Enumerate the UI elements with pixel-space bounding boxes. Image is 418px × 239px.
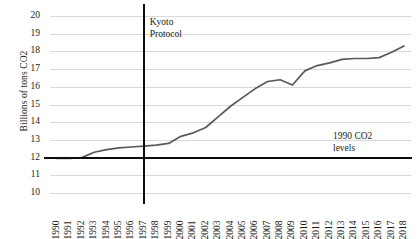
- x-tick-2005: 2005: [237, 220, 247, 239]
- plot-area: Kyoto Protocol 1990 CO2 levels: [50, 16, 411, 193]
- reference-line-kyoto-protocol: [143, 4, 145, 204]
- x-tick-2003: 2003: [213, 220, 223, 239]
- co2-emissions-chart: Billions of tons CO2 1011121314151617181…: [0, 0, 418, 239]
- x-tick-1995: 1995: [113, 220, 123, 239]
- y-tick-10: 10: [0, 188, 40, 198]
- annotation-1990-levels: 1990 CO2 levels: [333, 130, 372, 154]
- y-tick-11: 11: [0, 171, 40, 181]
- x-tick-2004: 2004: [225, 220, 235, 239]
- x-tick-1996: 1996: [126, 220, 136, 239]
- y-tick-13: 13: [0, 135, 40, 145]
- annotation-kyoto-line2: Protocol: [150, 28, 182, 40]
- annotation-levels-line2: levels: [333, 142, 372, 154]
- x-tick-2008: 2008: [275, 220, 285, 239]
- x-tick-2000: 2000: [175, 220, 185, 239]
- series-line: [50, 16, 411, 193]
- x-tick-2014: 2014: [349, 220, 359, 239]
- x-axis-tick-labels: 1990199119921993199419951996199719981999…: [50, 196, 411, 239]
- x-tick-1997: 1997: [138, 220, 148, 239]
- x-tick-1998: 1998: [151, 220, 161, 239]
- annotation-kyoto-line1: Kyoto: [150, 16, 182, 28]
- x-tick-1999: 1999: [163, 220, 173, 239]
- x-tick-1993: 1993: [89, 220, 99, 239]
- x-tick-2001: 2001: [188, 220, 198, 239]
- y-tick-15: 15: [0, 100, 40, 110]
- x-tick-1990: 1990: [52, 220, 62, 239]
- x-tick-2010: 2010: [299, 220, 309, 239]
- x-tick-2016: 2016: [374, 220, 384, 239]
- x-tick-2009: 2009: [287, 220, 297, 239]
- annotation-kyoto-protocol: Kyoto Protocol: [150, 16, 182, 40]
- y-tick-19: 19: [0, 29, 40, 39]
- x-tick-2015: 2015: [361, 220, 371, 239]
- x-tick-2006: 2006: [250, 220, 260, 239]
- x-tick-2017: 2017: [386, 220, 396, 239]
- y-tick-16: 16: [0, 82, 40, 92]
- x-tick-1992: 1992: [76, 220, 86, 239]
- x-tick-2011: 2011: [312, 220, 322, 239]
- x-tick-1994: 1994: [101, 220, 111, 239]
- y-tick-20: 20: [0, 11, 40, 21]
- x-tick-1991: 1991: [64, 220, 74, 239]
- gridline-10: [50, 193, 411, 194]
- x-tick-2002: 2002: [200, 220, 210, 239]
- annotation-levels-line1: 1990 CO2: [333, 130, 372, 142]
- x-tick-2007: 2007: [262, 220, 272, 239]
- y-tick-12: 12: [0, 153, 40, 163]
- x-tick-2018: 2018: [399, 220, 409, 239]
- y-tick-14: 14: [0, 117, 40, 127]
- y-tick-17: 17: [0, 64, 40, 74]
- x-tick-2012: 2012: [324, 220, 334, 239]
- y-axis-tick-labels: 1011121314151617181920: [0, 16, 44, 193]
- reference-line-1990-levels: [44, 157, 412, 159]
- x-tick-2013: 2013: [337, 220, 347, 239]
- y-tick-18: 18: [0, 47, 40, 57]
